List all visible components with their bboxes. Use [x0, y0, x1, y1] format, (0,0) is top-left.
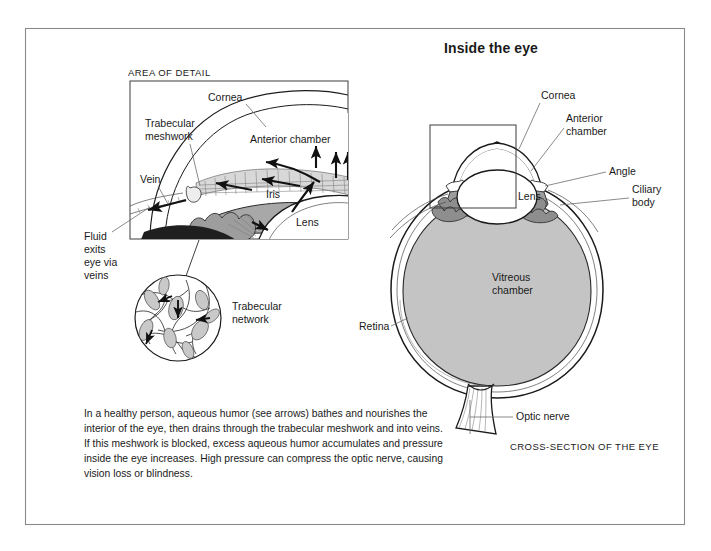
leader-cs-cornea: [519, 103, 540, 149]
caption-line-4: inside the eye increases. High pressure …: [84, 453, 443, 464]
trabecular-network-label-line2: network: [232, 313, 270, 325]
detail-label-trabecular-meshwork-1: Trabecular: [145, 117, 195, 129]
cs-label-lens: Lens: [518, 190, 541, 202]
caption-line-2: interior of the eye, then drains through…: [84, 423, 443, 434]
page-title: Inside the eye: [444, 40, 538, 56]
detail-label-vein: Vein: [140, 173, 161, 185]
cs-label-anterior-chamber-1: Anterior: [566, 112, 603, 124]
cs-label-anterior-chamber-2: chamber: [566, 125, 607, 137]
detail-label-trabecular-meshwork-2: meshwork: [145, 130, 194, 142]
leader-cs-anterior-chamber: [531, 128, 564, 171]
leader-cs-ciliary-body: [560, 198, 629, 205]
cs-label-ciliary-body-1: Ciliary: [632, 183, 662, 195]
fluid-exit-note-line2: exits: [84, 243, 106, 255]
eye-anatomy-figure: Inside the eye AREA OF DETAIL: [0, 0, 711, 551]
leader-vein: [158, 186, 168, 204]
cs-label-cornea: Cornea: [541, 89, 576, 101]
fluid-exit-note-line4: veins: [84, 269, 109, 281]
detail-label-anterior-chamber: Anterior chamber: [250, 133, 331, 145]
leader-fluid-exit: [112, 207, 150, 232]
cs-label-angle: Angle: [609, 165, 636, 177]
detail-label-cornea: Cornea: [208, 91, 243, 103]
caption-line-5: vision loss or blindness.: [84, 468, 193, 479]
leader-cs-angle: [545, 172, 606, 186]
cross-section-caption: CROSS-SECTION OF THE EYE: [510, 441, 659, 452]
detail-label-lens: Lens: [296, 216, 319, 228]
detail-label-iris: Iris: [266, 188, 280, 200]
caption-line-3: If this meshwork is blocked, excess aque…: [84, 438, 443, 449]
trabecular-network-label-line1: Trabecular: [232, 300, 282, 312]
cs-label-optic-nerve: Optic nerve: [516, 410, 570, 422]
detail-to-inset-connector: [186, 240, 199, 276]
fluid-exit-note-line1: Fluid: [84, 230, 107, 242]
detail-panel-caption: AREA OF DETAIL: [128, 67, 211, 78]
schlemm-canal: [186, 186, 201, 202]
caption-line-1: In a healthy person, aqueous humor (see …: [84, 408, 428, 419]
cs-label-retina: Retina: [359, 320, 390, 332]
cs-label-vitreous-chamber-1: Vitreous: [492, 271, 530, 283]
fluid-exit-note-line3: eye via: [84, 256, 117, 268]
cs-label-vitreous-chamber-2: chamber: [492, 284, 533, 296]
cs-label-ciliary-body-2: body: [632, 196, 656, 208]
